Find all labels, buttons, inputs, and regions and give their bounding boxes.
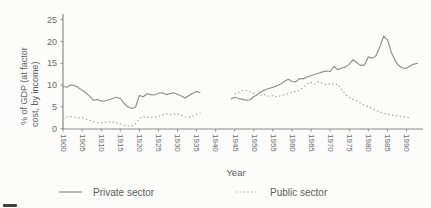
y-tick-label: 5 (52, 102, 57, 112)
legend-item-private-sector: Private sector (59, 185, 154, 199)
y-tick-label: 15 (47, 58, 57, 68)
x-tick-label: 1930 (173, 134, 182, 152)
x-tick-label: 1940 (211, 134, 220, 152)
axes: 0510152025190019051910191519201925193019… (47, 14, 423, 152)
y-tick-label: 10 (47, 80, 57, 90)
y-axis-label-line1: % of GDP (at factor (19, 47, 29, 125)
dotted-line-swatch (236, 189, 259, 195)
solid-line-swatch (59, 189, 82, 195)
x-axis-label: Year (226, 167, 245, 178)
legend-label-private-sector: Private sector (93, 187, 154, 198)
x-tick-label: 1920 (135, 134, 144, 152)
legend-item-public-sector: Public sector (236, 185, 327, 199)
y-tick-label: 25 (47, 15, 57, 25)
x-tick-label: 1905 (78, 134, 87, 152)
x-tick-label: 1915 (116, 134, 125, 152)
chart-figure: % of GDP (at factor cost, by income) Yea… (0, 0, 431, 208)
x-tick-label: 1965 (307, 134, 316, 152)
x-tick-label: 1935 (192, 134, 201, 152)
private-sector-line (63, 85, 200, 109)
x-tick-label: 1975 (345, 134, 354, 152)
legend-label-public-sector: Public sector (270, 187, 327, 198)
x-tick-label: 1925 (154, 134, 163, 152)
x-tick-label: 1955 (269, 134, 278, 152)
public-sector-line (63, 113, 200, 126)
x-tick-label: 1970 (326, 134, 335, 152)
x-tick-label: 1980 (364, 134, 373, 152)
x-tick-label: 1945 (231, 134, 240, 152)
x-tick-label: 1985 (383, 134, 392, 152)
scan-mark (3, 204, 17, 207)
y-tick-label: 20 (47, 37, 57, 47)
y-tick-label: 0 (52, 124, 57, 134)
public-sector-line (235, 82, 410, 118)
data-series (63, 36, 418, 126)
x-tick-label: 1990 (402, 134, 411, 152)
x-tick-label: 1960 (288, 134, 297, 152)
x-tick-label: 1900 (59, 134, 68, 152)
x-tick-label: 1910 (97, 134, 106, 152)
x-tick-label: 1950 (250, 134, 259, 152)
y-axis-label-line2: cost, by income) (30, 61, 40, 127)
line-chart: % of GDP (at factor cost, by income) Yea… (0, 0, 431, 182)
private-sector-line (231, 36, 418, 100)
